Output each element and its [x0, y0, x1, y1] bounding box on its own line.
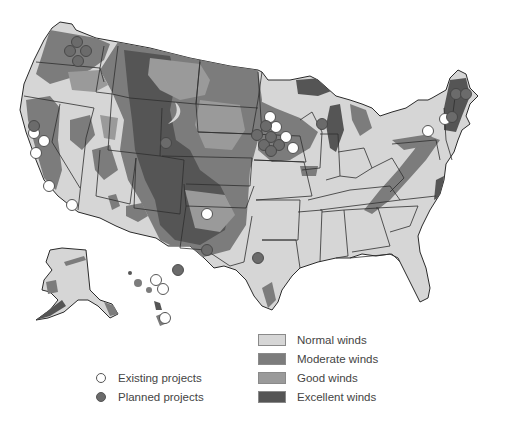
project-marker	[29, 121, 40, 132]
legend-item-excellent: Excellent winds	[258, 387, 378, 406]
zone-moderate-illinois	[300, 166, 318, 176]
contiguous-us	[20, 22, 478, 310]
good-winds-swatch	[258, 372, 286, 384]
project-marker	[423, 126, 434, 137]
legend-label: Existing projects	[118, 372, 202, 384]
legend-item-good: Good winds	[258, 368, 378, 387]
moderate-winds-swatch	[258, 353, 286, 365]
project-marker	[266, 146, 277, 157]
project-marker	[447, 112, 458, 123]
project-marker	[288, 143, 299, 154]
project-marker	[161, 138, 172, 149]
legend-label: Planned projects	[118, 391, 204, 403]
project-marker	[261, 121, 272, 132]
alaska-good-west	[46, 280, 58, 294]
project-marker	[65, 46, 76, 57]
project-marker	[173, 265, 184, 276]
legend-item-existing: Existing projects	[96, 368, 204, 387]
project-marker	[160, 313, 171, 324]
planned-project-circle-icon	[96, 392, 106, 402]
legend-label: Excellent winds	[297, 391, 376, 403]
project-marker	[158, 284, 169, 295]
excellent-winds-swatch	[258, 391, 286, 403]
legend-label: Good winds	[297, 372, 358, 384]
project-marker	[151, 275, 162, 286]
project-marker	[451, 89, 462, 100]
project-marker	[73, 56, 84, 67]
project-marker	[202, 209, 213, 220]
project-marker	[81, 46, 92, 57]
legend-label: Moderate winds	[297, 353, 378, 365]
project-marker	[317, 119, 328, 130]
wind-resource-map	[0, 0, 514, 426]
existing-project-circle-icon	[96, 373, 106, 383]
legend-item-moderate: Moderate winds	[258, 349, 378, 368]
project-marker	[461, 89, 472, 100]
projects-legend: Existing projects Planned projects	[96, 368, 204, 406]
project-marker	[252, 130, 263, 141]
project-marker	[67, 200, 78, 211]
wind-legend: Normal winds Moderate winds Good winds E…	[258, 330, 378, 406]
project-marker	[31, 148, 42, 159]
legend-item-normal: Normal winds	[258, 330, 378, 349]
project-marker	[253, 253, 264, 264]
project-marker	[39, 136, 50, 147]
alaska	[36, 248, 118, 320]
project-marker	[44, 181, 55, 192]
project-marker	[202, 245, 213, 256]
normal-winds-swatch	[258, 334, 286, 346]
project-marker	[72, 37, 83, 48]
project-marker	[271, 122, 282, 133]
legend-label: Normal winds	[297, 334, 367, 346]
legend-item-planned: Planned projects	[96, 387, 204, 406]
